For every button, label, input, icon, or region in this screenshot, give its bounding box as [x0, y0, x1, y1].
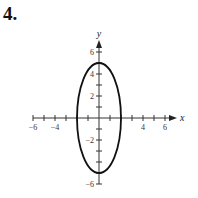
ellipse-plot: −6−446642−2−6xy	[0, 0, 198, 198]
y-axis-arrow-icon	[96, 40, 102, 48]
x-tick-label: 4	[141, 123, 145, 132]
x-axis-label: x	[179, 112, 185, 123]
x-tick-label: −6	[29, 123, 38, 132]
y-axis-label: y	[96, 28, 102, 39]
y-tick-label: 4	[90, 70, 94, 79]
y-tick-label: −2	[85, 136, 94, 145]
y-tick-label: −6	[85, 180, 94, 189]
y-tick-label: 2	[90, 92, 94, 101]
y-tick-label: 6	[90, 48, 94, 57]
x-axis-arrow-icon	[169, 115, 177, 121]
x-tick-label: 6	[163, 123, 167, 132]
x-tick-label: −4	[51, 123, 60, 132]
